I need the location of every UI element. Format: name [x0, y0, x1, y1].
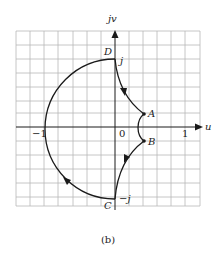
grid: [16, 31, 200, 206]
point-label-B: B: [148, 137, 155, 147]
vertical-axis-label: jv: [108, 14, 117, 24]
point-label-C: C: [104, 201, 112, 211]
contour-plot: [0, 0, 216, 253]
point-A-marker: [142, 112, 146, 116]
tick-label-one: 1: [182, 129, 188, 139]
point-label-A: A: [148, 109, 155, 119]
horizontal-axis-arrow-icon: [195, 124, 203, 131]
tick-label-neg-one: −1: [32, 129, 47, 139]
point-label-j: j: [120, 56, 123, 66]
arrow-icon-CD: [63, 177, 71, 185]
tick-label-zero: 0: [119, 129, 125, 139]
figure-caption: (b): [0, 234, 216, 245]
point-B-marker: [142, 139, 146, 143]
point-label-neg-j: −j: [119, 194, 130, 204]
point-label-D: D: [104, 47, 112, 57]
horizontal-axis-label: u: [205, 122, 211, 132]
